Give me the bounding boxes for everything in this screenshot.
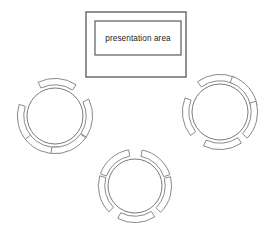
table-right[interactable] (182, 74, 257, 149)
table-left[interactable] (17, 78, 92, 153)
table-circle[interactable] (192, 84, 248, 140)
presentation-area-label: presentation area (105, 34, 171, 43)
floor-plan-canvas: presentation area (0, 0, 276, 240)
tables-group (17, 74, 257, 222)
table-bottom[interactable] (98, 150, 171, 223)
table-circle[interactable] (27, 88, 83, 144)
room-layout-diagram: presentation area (0, 0, 276, 240)
table-circle[interactable] (108, 159, 162, 213)
